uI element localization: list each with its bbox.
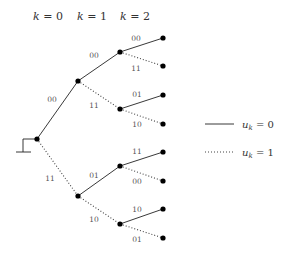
node-l5 — [160, 149, 165, 154]
edge-root-n1b — [37, 139, 78, 196]
edge-label: 11 — [131, 64, 141, 73]
node-l8 — [160, 235, 165, 240]
node-root — [34, 136, 39, 141]
edge-n2a-l1 — [120, 38, 163, 52]
edge-n1a-n2a — [78, 52, 120, 81]
edge-label: 01 — [132, 235, 142, 244]
node-l6 — [160, 178, 165, 183]
node-l3 — [160, 92, 165, 97]
edge-label: 10 — [89, 215, 99, 224]
node-n2b — [117, 106, 122, 111]
edge-label: 01 — [132, 90, 142, 99]
edge-label: 10 — [132, 205, 142, 214]
legend-label-solid: uk = 0 — [242, 119, 274, 132]
edge-n1b-n2d — [78, 196, 120, 224]
legend: uk = 0uk = 1 — [205, 119, 274, 160]
edge-n1b-n2c — [78, 166, 120, 196]
edge-label: 11 — [89, 101, 99, 110]
node-n2c — [117, 163, 122, 168]
edge-root-n1a — [37, 81, 78, 139]
edge-label: 00 — [47, 95, 57, 104]
header-k-1: k = 1 — [77, 10, 107, 23]
time-step-headers: k = 0k = 1k = 2 — [33, 10, 150, 23]
edge-label: 11 — [132, 147, 142, 156]
node-l7 — [160, 206, 165, 211]
edge-label: 10 — [132, 120, 142, 129]
node-l4 — [160, 121, 165, 126]
header-k-2: k = 2 — [120, 10, 150, 23]
node-l2 — [160, 63, 165, 68]
edge-label: 00 — [131, 34, 141, 43]
edge-label: 00 — [132, 177, 142, 186]
ground-symbol — [16, 139, 37, 152]
node-n1b — [75, 193, 80, 198]
node-n2a — [117, 49, 122, 54]
node-n1a — [75, 78, 80, 83]
node-l1 — [160, 35, 165, 40]
legend-label-dotted: uk = 1 — [242, 147, 274, 160]
tree-edges — [37, 38, 163, 238]
edge-n1a-n2b — [78, 81, 120, 109]
edge-labels: 0011001101100011011011001001 — [45, 34, 142, 244]
node-n2d — [117, 221, 122, 226]
edge-label: 01 — [89, 171, 99, 180]
edge-n2a-l2 — [120, 52, 163, 66]
trellis-tree-diagram: k = 0k = 1k = 2 001100110110001101101100… — [0, 0, 288, 259]
edge-label: 00 — [89, 51, 99, 60]
header-k-0: k = 0 — [33, 10, 63, 23]
edge-label: 11 — [45, 174, 55, 183]
